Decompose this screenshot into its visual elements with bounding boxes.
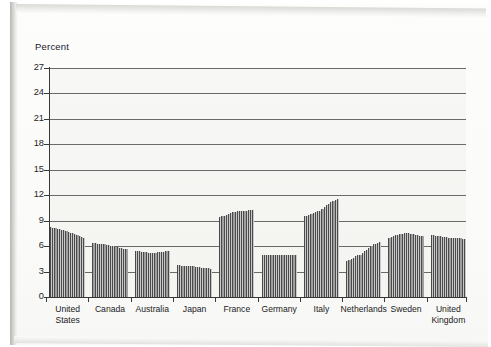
y-tick-label-12: 12 <box>18 189 44 199</box>
bar-group <box>304 68 339 297</box>
y-tick-mark-3 <box>44 272 50 273</box>
x-tick-mark <box>342 297 343 302</box>
bar-group <box>50 68 85 297</box>
y-tick-label-24: 24 <box>18 87 44 97</box>
x-tick-mark <box>88 297 89 302</box>
y-tick-mark-24 <box>44 93 50 94</box>
x-axis-label-united-kingdom: UnitedKingdom <box>422 304 475 325</box>
x-tick-mark <box>258 297 259 302</box>
x-tick-mark <box>173 297 174 302</box>
bar <box>337 199 339 297</box>
bar <box>125 249 127 297</box>
y-tick-mark-6 <box>44 246 50 247</box>
bar <box>252 210 254 297</box>
y-tick-label-6: 6 <box>18 240 44 250</box>
plot-area <box>50 68 466 297</box>
y-tick-label-0: 0 <box>18 291 44 301</box>
bar <box>168 251 170 297</box>
bar <box>421 236 423 297</box>
bar <box>295 255 297 297</box>
bar-group <box>388 68 423 297</box>
bar-group <box>262 68 297 297</box>
y-axis-tick-labels: 2724211815129630 <box>14 0 44 345</box>
y-tick-mark-12 <box>44 195 50 196</box>
y-tick-mark-9 <box>44 221 50 222</box>
y-tick-mark-0 <box>44 297 50 298</box>
y-tick-label-9: 9 <box>18 215 44 225</box>
y-tick-label-15: 15 <box>18 164 44 174</box>
x-tick-mark <box>384 297 385 302</box>
x-tick-mark <box>46 297 47 302</box>
x-tick-mark <box>215 297 216 302</box>
y-tick-label-18: 18 <box>18 138 44 148</box>
y-tick-label-27: 27 <box>18 62 44 72</box>
bar-group <box>135 68 170 297</box>
bar-group <box>177 68 212 297</box>
x-tick-mark <box>427 297 428 302</box>
bar-group <box>346 68 381 297</box>
bar <box>210 269 212 297</box>
bar <box>464 239 466 297</box>
y-tick-mark-27 <box>44 68 50 69</box>
x-tick-mark <box>131 297 132 302</box>
y-tick-label-21: 21 <box>18 113 44 123</box>
bar-group <box>92 68 127 297</box>
y-tick-mark-15 <box>44 170 50 171</box>
x-tick-mark <box>466 297 467 302</box>
y-tick-mark-21 <box>44 119 50 120</box>
bar <box>83 238 85 297</box>
y-tick-mark-18 <box>44 144 50 145</box>
bar-group <box>219 68 254 297</box>
y-tick-label-3: 3 <box>18 266 44 276</box>
bar <box>379 242 381 297</box>
x-tick-mark <box>300 297 301 302</box>
bar-group <box>431 68 466 297</box>
